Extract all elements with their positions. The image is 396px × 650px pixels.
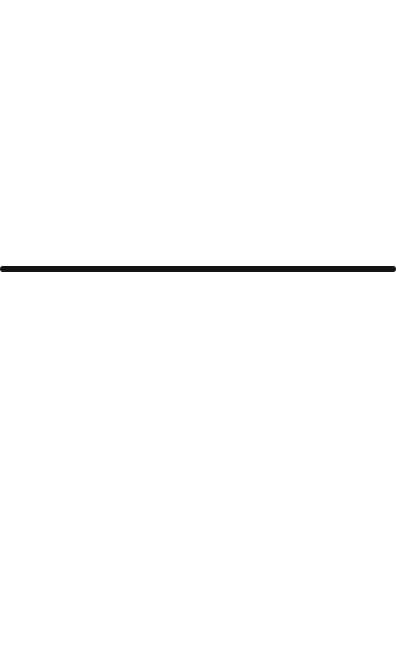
- horizontal-divider: [0, 266, 396, 272]
- blank-canvas: [0, 0, 396, 650]
